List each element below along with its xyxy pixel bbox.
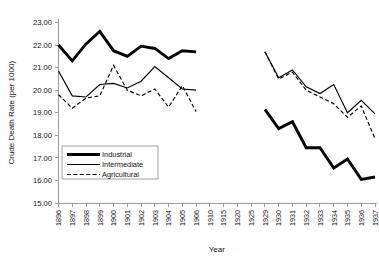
x-tick-label: 1899 xyxy=(96,210,105,226)
x-tick-label: 1932 xyxy=(302,210,311,226)
y-tick-label: 22.00 xyxy=(33,41,52,50)
y-axis-title: Crude Death Rate (per 1000) xyxy=(7,61,16,165)
x-axis-title: Year xyxy=(209,245,226,254)
x-tick-label: 1936 xyxy=(357,210,366,226)
x-tick-label: 1934 xyxy=(330,210,339,226)
x-tick-label: 1905 xyxy=(178,210,187,226)
y-tick-marks xyxy=(55,23,59,204)
x-tick-label: 1902 xyxy=(137,210,146,226)
y-tick-label: 17.00 xyxy=(33,154,52,163)
x-tick-label: 1901 xyxy=(123,210,132,226)
x-tick-label: 1897 xyxy=(68,210,77,226)
y-axis-group: 15.0016.0017.0018.0019.0020.0021.0022.00… xyxy=(7,18,59,208)
x-tick-marks xyxy=(59,203,376,207)
legend-label-industrial: Industrial xyxy=(102,150,132,159)
x-tick-label: 1903 xyxy=(151,210,160,226)
y-tick-label: 15.00 xyxy=(33,199,52,208)
x-tick-label: 1933 xyxy=(316,210,325,226)
x-tick-label: 1920 xyxy=(233,210,242,226)
legend-label-agricultural: Agricultural xyxy=(102,170,139,179)
chart-legend: IndustrialIntermediateAgricultural xyxy=(62,146,158,179)
x-tick-labels: 1896189718981899190019011902190319041905… xyxy=(54,210,379,226)
series-line-intermediate xyxy=(59,67,197,97)
y-tick-labels: 15.0016.0017.0018.0019.0020.0021.0022.00… xyxy=(33,18,52,208)
x-tick-label: 1906 xyxy=(192,210,201,226)
x-axis-group: 1896189718981899190019011902190319041905… xyxy=(54,203,379,254)
y-tick-label: 23.00 xyxy=(33,18,52,27)
x-tick-label: 1898 xyxy=(82,210,91,226)
chart-container: 15.0016.0017.0018.0019.0020.0021.0022.00… xyxy=(0,0,379,259)
y-tick-label: 21.00 xyxy=(33,63,52,72)
x-tick-label: 1925 xyxy=(247,210,256,226)
x-tick-label: 1937 xyxy=(371,210,379,226)
y-tick-label: 20.00 xyxy=(33,86,52,95)
series-line-industrial xyxy=(265,109,375,179)
x-tick-label: 1930 xyxy=(274,210,283,226)
x-tick-label: 1935 xyxy=(343,210,352,226)
series-line-industrial xyxy=(59,32,197,61)
x-tick-label: 1904 xyxy=(164,210,173,226)
x-tick-label: 1929 xyxy=(261,210,270,226)
x-tick-label: 1896 xyxy=(54,210,63,226)
x-tick-label: 1915 xyxy=(219,210,228,226)
x-tick-label: 1900 xyxy=(109,210,118,226)
y-tick-label: 16.00 xyxy=(33,176,52,185)
y-tick-label: 18.00 xyxy=(33,131,52,140)
x-tick-label: 1910 xyxy=(206,210,215,226)
line-chart-svg: 15.0016.0017.0018.0019.0020.0021.0022.00… xyxy=(0,0,379,259)
x-tick-label: 1931 xyxy=(288,210,297,226)
y-tick-label: 19.00 xyxy=(33,108,52,117)
series-line-intermediate xyxy=(265,52,375,114)
legend-label-intermediate: Intermediate xyxy=(102,160,143,169)
